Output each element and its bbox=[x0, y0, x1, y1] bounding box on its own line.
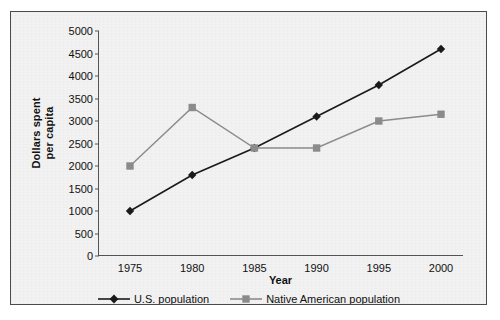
data-point-marker bbox=[312, 112, 320, 120]
y-axis-title-line-1: Dollars spent bbox=[30, 98, 42, 169]
y-tick-label: 1000 bbox=[69, 205, 98, 217]
legend-entry-1[interactable]: U.S. population bbox=[97, 293, 209, 305]
series-line bbox=[130, 108, 441, 167]
x-tick-label: 1980 bbox=[180, 256, 204, 274]
legend-square-icon bbox=[229, 293, 263, 305]
chart-figure: Dollars spent per capita 050010001500200… bbox=[10, 11, 487, 305]
chart-legend: U.S. populationNative American populatio… bbox=[11, 293, 486, 305]
series-line bbox=[130, 49, 441, 211]
x-tick-label: 1975 bbox=[118, 256, 142, 274]
data-point-marker bbox=[375, 81, 383, 89]
y-tick-label: 2000 bbox=[69, 160, 98, 172]
series-1 bbox=[126, 45, 445, 215]
x-tick-label: 1995 bbox=[367, 256, 391, 274]
y-tick-label: 3500 bbox=[69, 93, 98, 105]
legend-entry-2[interactable]: Native American population bbox=[229, 293, 400, 305]
data-point-marker bbox=[189, 104, 196, 111]
data-point-marker bbox=[188, 171, 196, 179]
data-point-marker bbox=[437, 111, 444, 118]
data-point-marker bbox=[126, 207, 134, 215]
x-axis-title: Year bbox=[98, 274, 463, 286]
y-axis-title: Dollars spent per capita bbox=[30, 73, 56, 193]
legend-label: U.S. population bbox=[134, 293, 209, 305]
plot-area: 0500100015002000250030003500400045005000… bbox=[98, 31, 463, 256]
data-point-marker bbox=[126, 162, 133, 169]
y-axis-title-line-2: per capita bbox=[43, 107, 55, 160]
x-tick-label: 1990 bbox=[304, 256, 328, 274]
series-2 bbox=[126, 104, 444, 170]
y-tick-label: 4500 bbox=[69, 48, 98, 60]
data-point-marker bbox=[251, 144, 258, 151]
data-point-marker bbox=[375, 117, 382, 124]
x-tick-label: 2000 bbox=[429, 256, 453, 274]
y-tick-label: 4000 bbox=[69, 70, 98, 82]
y-tick-label: 2500 bbox=[69, 138, 98, 150]
x-tick-label: 1985 bbox=[242, 256, 266, 274]
series-layer bbox=[98, 31, 463, 256]
legend-diamond-icon bbox=[97, 293, 131, 305]
legend-label: Native American population bbox=[266, 293, 400, 305]
data-point-marker bbox=[313, 144, 320, 151]
y-tick-label: 1500 bbox=[69, 183, 98, 195]
y-tick-label: 3000 bbox=[69, 115, 98, 127]
data-point-marker bbox=[437, 45, 445, 53]
y-tick-label: 5000 bbox=[69, 25, 98, 37]
